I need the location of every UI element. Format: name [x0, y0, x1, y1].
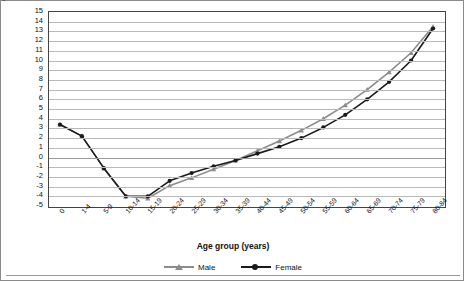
y-tick-label: 15 [35, 7, 43, 15]
y-tick-label: -1 [36, 162, 43, 170]
legend-marker [175, 264, 183, 270]
y-tick-label: 14 [35, 17, 43, 25]
gridline [49, 167, 445, 168]
gridline [49, 128, 445, 129]
gridline [49, 177, 445, 178]
gridline [49, 31, 445, 32]
y-tick-label: 7 [39, 85, 43, 93]
gridline [49, 109, 445, 110]
gridline [49, 80, 445, 81]
y-tick-label: 12 [35, 36, 43, 44]
y-tick-label: 11 [35, 46, 43, 54]
data-point-female [58, 122, 62, 126]
x-tick-label: 0 [58, 207, 66, 215]
x-axis-title-text: Age group (years) [197, 241, 270, 251]
y-tick-label: -3 [36, 182, 43, 190]
gridline [49, 119, 445, 120]
y-tick-label: -4 [36, 192, 43, 200]
y-tick-label: 8 [39, 75, 43, 83]
y-tick-label: 13 [35, 27, 43, 35]
y-tick-label: 0 [39, 153, 43, 161]
y-tick-label: 6 [39, 95, 43, 103]
legend-label-female: Female [275, 263, 302, 272]
data-point-female [343, 113, 347, 117]
chart-figure: Component value [logit (ₙqₓ)] 1514131211… [0, 0, 464, 281]
gridline [49, 22, 445, 23]
x-axis-tick-labels: 01-45-910-1415-1920-2425-2930-3435-3940-… [48, 210, 446, 240]
data-point-female [255, 152, 259, 156]
y-tick-label: 9 [39, 65, 43, 73]
y-tick-label: 2 [39, 133, 43, 141]
legend-swatch-male [164, 266, 194, 268]
series-line-male [60, 27, 433, 199]
y-tick-label: -5 [36, 201, 43, 209]
legend-item-female: Female [241, 263, 302, 272]
legend-separator [6, 275, 460, 276]
x-axis-title: Age group (years) [1, 241, 464, 251]
data-point-female [190, 171, 194, 175]
legend-marker [252, 264, 258, 270]
gridline [49, 99, 445, 100]
legend-swatch-female [241, 266, 271, 268]
data-point-female [233, 158, 237, 162]
y-axis-tick-labels: 1514131211109876543210-1-2-3-4-5 [1, 1, 46, 218]
gridline [49, 51, 445, 52]
gridline [49, 90, 445, 91]
gridline [49, 148, 445, 149]
y-tick-label: 4 [39, 114, 43, 122]
gridline [49, 158, 445, 159]
y-tick-label: -2 [36, 172, 43, 180]
y-tick-label: 3 [39, 124, 43, 132]
gridline [49, 41, 445, 42]
gridline [49, 187, 445, 188]
gridline [49, 70, 445, 71]
chart-legend: Male Female [1, 260, 464, 274]
y-tick-label: 1 [39, 143, 43, 151]
series-line-female [60, 28, 433, 196]
gridline [49, 61, 445, 62]
legend-label-male: Male [198, 263, 215, 272]
plot-area [48, 11, 446, 208]
gridline [49, 138, 445, 139]
data-point-female [168, 179, 172, 183]
y-tick-label: 5 [39, 104, 43, 112]
y-tick-label: 10 [35, 56, 43, 64]
legend-item-male: Male [164, 263, 215, 272]
data-point-female [431, 26, 435, 30]
